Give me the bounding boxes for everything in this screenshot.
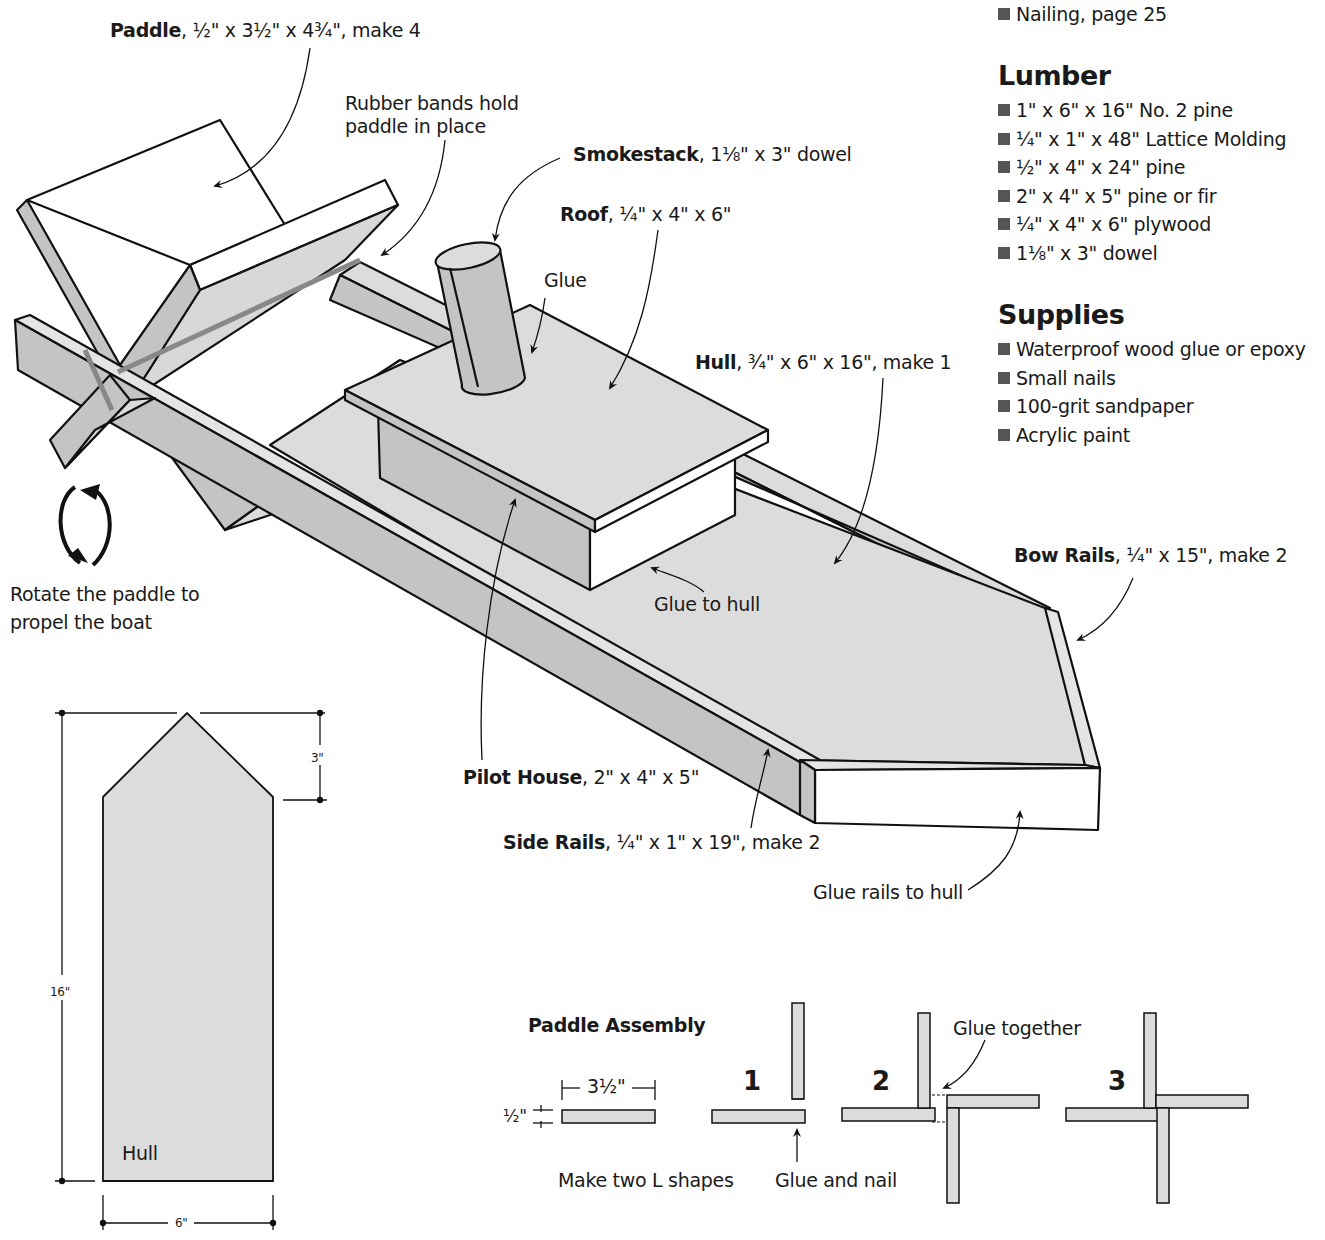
- list-item: Waterproof wood glue or epoxy: [998, 335, 1306, 364]
- roof-callout: Roof, ¼" x 4" x 6": [560, 202, 731, 226]
- make-two-l-shapes-label: Make two L shapes: [558, 1168, 734, 1192]
- smokestack-leader: [495, 158, 560, 240]
- bullet-icon: [998, 400, 1010, 412]
- list-item: 1" x 6" x 16" No. 2 pine: [998, 96, 1286, 125]
- bullet-icon: [998, 161, 1010, 173]
- hull-plan-label: Hull: [122, 1141, 158, 1165]
- bullet-icon: [998, 8, 1010, 20]
- bullet-icon: [998, 372, 1010, 384]
- supplies-list: Waterproof wood glue or epoxy Small nail…: [998, 335, 1306, 449]
- list-item: ¼" x 1" x 48" Lattice Molding: [998, 125, 1286, 154]
- rotate-callout: Rotate the paddle to propel the boat: [10, 580, 199, 636]
- paddle-assembly-title: Paddle Assembly: [528, 1013, 705, 1037]
- hull-length-dimension: 16": [50, 980, 70, 1004]
- step-2-number: 2: [872, 1066, 890, 1096]
- pilot-house-callout: Pilot House, 2" x 4" x 5": [463, 765, 699, 789]
- bow-rails-callout: Bow Rails, ¼" x 15", make 2: [1014, 543, 1287, 567]
- paddle-callout: Paddle, ½" x 3½" x 4¾", make 4: [110, 18, 421, 42]
- bullet-icon: [998, 429, 1010, 441]
- side-rails-callout: Side Rails, ¼" x 1" x 19", make 2: [503, 830, 820, 854]
- supplies-heading: Supplies: [998, 299, 1124, 330]
- list-item: Nailing, page 25: [998, 0, 1167, 29]
- glue-to-hull-callout: Glue to hull: [654, 592, 760, 616]
- glue-rails-callout: Glue rails to hull: [813, 880, 963, 904]
- step-1-number: 1: [743, 1066, 761, 1096]
- bullet-icon: [998, 133, 1010, 145]
- list-item: 1⅛" x 3" dowel: [998, 239, 1286, 268]
- glue-callout: Glue: [544, 268, 587, 292]
- list-item: ¼" x 4" x 6" plywood: [998, 210, 1286, 239]
- glue-together-leader: [944, 1040, 985, 1088]
- glue-and-nail-label: Glue and nail: [775, 1168, 897, 1192]
- paddle-thickness-dimension: ½": [503, 1104, 527, 1128]
- smokestack-callout: Smokestack, 1⅛" x 3" dowel: [573, 142, 852, 166]
- list-item: ½" x 4" x 24" pine: [998, 153, 1286, 182]
- hull-point-dimension: 3": [311, 746, 324, 770]
- list-item: Acrylic paint: [998, 421, 1306, 450]
- bullet-icon: [998, 343, 1010, 355]
- hull-width-dimension: 6": [175, 1211, 188, 1235]
- bullet-icon: [998, 190, 1010, 202]
- bow-rails-leader: [1078, 578, 1133, 640]
- see-also-list: Nailing, page 25: [998, 0, 1167, 29]
- list-item: 100-grit sandpaper: [998, 392, 1306, 421]
- list-item: 2" x 4" x 5" pine or fir: [998, 182, 1286, 211]
- rotate-icon: [61, 487, 110, 565]
- bullet-icon: [998, 247, 1010, 259]
- list-item: Small nails: [998, 364, 1306, 393]
- hull-callout: Hull, ¾" x 6" x 16", make 1: [695, 350, 951, 374]
- step-3-number: 3: [1108, 1066, 1126, 1096]
- hull-plan: [103, 713, 273, 1181]
- rubber-bands-callout: Rubber bands hold paddle in place: [345, 92, 519, 138]
- lumber-heading: Lumber: [998, 60, 1111, 91]
- lumber-list: 1" x 6" x 16" No. 2 pine ¼" x 1" x 48" L…: [998, 96, 1286, 267]
- glue-together-label: Glue together: [953, 1016, 1081, 1040]
- bullet-icon: [998, 104, 1010, 116]
- bullet-icon: [998, 218, 1010, 230]
- paddle-length-dimension: 3½": [587, 1074, 625, 1098]
